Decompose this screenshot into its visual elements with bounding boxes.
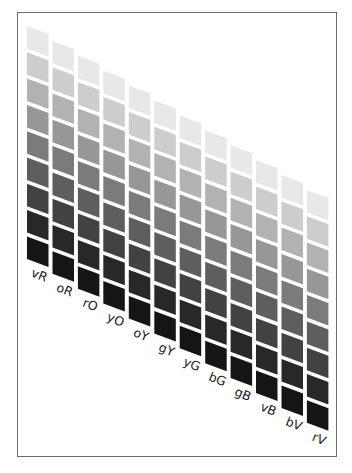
swatch (154, 153, 176, 184)
swatch (282, 307, 304, 338)
swatch (129, 270, 151, 301)
swatch (78, 187, 100, 218)
column-rV: rV (307, 190, 329, 448)
swatch (256, 292, 278, 323)
swatch (256, 239, 278, 270)
swatch (282, 254, 304, 285)
swatch (103, 150, 125, 181)
column-bV: bV (282, 175, 305, 434)
swatch (205, 341, 227, 372)
swatch (53, 251, 75, 281)
swatch (231, 145, 253, 176)
swatch (307, 216, 329, 247)
swatch (27, 26, 49, 57)
swatch (154, 311, 176, 342)
swatch (256, 371, 278, 402)
column-vR: vR (27, 26, 50, 285)
swatch (205, 183, 227, 214)
swatch (307, 295, 329, 326)
swatch (205, 209, 227, 240)
swatch (78, 214, 100, 245)
swatch (78, 135, 100, 166)
column-label: vR (29, 265, 50, 285)
column-oR: oR (53, 41, 76, 300)
column-rO: rO (78, 56, 100, 315)
swatch (103, 123, 125, 154)
column-label: oR (54, 280, 75, 300)
column-label: rO (81, 295, 101, 315)
swatch (180, 300, 202, 331)
swatch (307, 190, 329, 221)
swatch (180, 273, 202, 304)
swatch (103, 202, 125, 233)
swatch (180, 326, 202, 357)
swatch (307, 243, 329, 274)
swatch (27, 158, 49, 189)
swatch (103, 71, 125, 102)
swatch (256, 160, 278, 191)
swatch (256, 186, 278, 217)
swatch (307, 269, 329, 300)
column-label: vB (258, 399, 278, 419)
swatch (27, 184, 49, 215)
swatch (205, 262, 227, 293)
swatch (205, 314, 227, 345)
column-gY: gY (154, 101, 177, 360)
swatch (180, 194, 202, 225)
swatch (307, 374, 329, 405)
swatch (129, 138, 151, 169)
swatch (231, 224, 253, 255)
swatch (231, 356, 253, 387)
swatch (180, 142, 202, 173)
swatch (78, 56, 100, 87)
swatch (180, 221, 202, 252)
swatch (282, 201, 304, 232)
swatch (205, 288, 227, 319)
swatch (53, 225, 75, 256)
swatch (282, 280, 304, 311)
swatch (129, 296, 151, 327)
swatch (256, 213, 278, 244)
column-label: yG (181, 354, 202, 374)
swatch (129, 112, 151, 142)
swatch (282, 175, 304, 206)
swatch (180, 168, 202, 199)
swatch (231, 277, 253, 308)
swatch (231, 172, 253, 203)
swatch (282, 385, 304, 416)
swatch (27, 236, 49, 267)
swatch (103, 176, 125, 207)
swatch (78, 266, 100, 297)
column-yO: yO (103, 71, 126, 330)
swatch (180, 115, 202, 145)
swatch (27, 79, 49, 110)
swatch (53, 67, 75, 98)
column-label: yO (105, 309, 127, 329)
swatch (205, 130, 227, 161)
swatch (282, 359, 304, 390)
column-vB: vB (256, 160, 279, 419)
swatch (27, 52, 49, 83)
swatch (129, 165, 151, 196)
swatch (129, 191, 151, 222)
swatch (256, 318, 278, 349)
swatch (27, 131, 49, 162)
swatch (53, 146, 75, 177)
swatch (205, 236, 227, 267)
swatch (27, 210, 49, 241)
swatch (154, 258, 176, 289)
swatch (27, 105, 49, 135)
swatch (154, 101, 176, 132)
column-label: bG (207, 369, 229, 390)
swatch (53, 41, 75, 72)
swatch (103, 229, 125, 260)
swatch (53, 94, 75, 125)
swatch (78, 82, 100, 113)
column-bG: bG (205, 130, 228, 389)
swatch (103, 281, 125, 312)
swatch (129, 86, 151, 117)
value-scale-chart: vRoRrOyOoYgYyGbGgBvBbVrV (0, 0, 352, 473)
swatch (129, 243, 151, 274)
swatch (154, 206, 176, 237)
column-label: oY (131, 325, 151, 345)
